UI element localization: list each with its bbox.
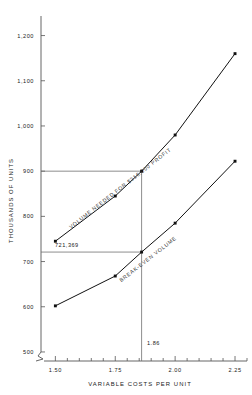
data-point-marker xyxy=(234,52,237,55)
breakeven-volume-value: 721,369 xyxy=(55,242,79,248)
y-tick-label: 800 xyxy=(23,213,34,219)
break-even-analysis-chart: 5006007008009001,0001,1001,200 1.501.752… xyxy=(0,0,252,395)
y-tick-label: 700 xyxy=(23,259,34,265)
data-point-marker xyxy=(114,275,117,278)
y-tick-label: 1,000 xyxy=(17,123,34,129)
data-point-marker xyxy=(174,222,177,225)
data-point-marker xyxy=(174,134,177,137)
series-lines xyxy=(55,54,235,306)
series-line-1 xyxy=(55,161,235,306)
y-tick-label: 600 xyxy=(23,304,34,310)
profit-curve-label: VOLUME NEEDED FOR $316,000 PROFIT xyxy=(68,146,172,229)
data-point-marker xyxy=(140,251,143,254)
x-axis-title: VARIABLE COSTS PER UNIT xyxy=(88,381,192,387)
y-axis-tick-marks xyxy=(41,36,45,352)
x-tick-label: 2.25 xyxy=(228,367,241,373)
y-axis-title: THOUSANDS OF UNITS xyxy=(8,158,14,243)
y-axis-tick-labels: 5006007008009001,0001,1001,200 xyxy=(17,33,34,355)
y-tick-label: 500 xyxy=(23,349,34,355)
x-axis-tick-labels: 1.501.752.002.25 xyxy=(49,367,242,373)
breakeven-curve-label: BREAK-EVEN VOLUME xyxy=(118,235,177,283)
x-tick-label: 1.75 xyxy=(109,367,122,373)
data-point-marker xyxy=(54,304,57,307)
y-tick-label: 1,100 xyxy=(17,78,34,84)
x-tick-label: 1.50 xyxy=(49,367,62,373)
chart-container: 5006007008009001,0001,1001,200 1.501.752… xyxy=(0,0,252,395)
x-tick-label: 2.00 xyxy=(169,367,182,373)
axis-break-symbol xyxy=(36,352,43,361)
y-tick-label: 1,200 xyxy=(17,33,34,39)
variable-cost-value: 1.86 xyxy=(147,340,160,346)
data-point-marker xyxy=(234,160,237,163)
series-markers xyxy=(54,52,237,307)
x-axis-tick-marks xyxy=(55,356,247,361)
y-tick-label: 900 xyxy=(23,168,34,174)
